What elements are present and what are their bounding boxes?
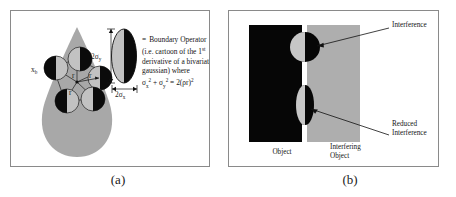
interfering-object-label-line2: Object bbox=[330, 152, 361, 161]
sigma-y-dimension-label: 2σy bbox=[91, 52, 101, 62]
legend-formula: σx2 + σy2 = 2(ρr)2 bbox=[142, 76, 210, 92]
interfering-object-label: Interfering Object bbox=[330, 143, 361, 161]
radius-label-2: r bbox=[89, 71, 91, 80]
boundary-operator-blob-4 bbox=[81, 87, 105, 111]
radius-label-1: r bbox=[72, 71, 74, 80]
legend-line-3: derivative of a bivariate bbox=[142, 57, 210, 67]
boundary-operator-blob-2 bbox=[68, 47, 92, 71]
radius-label-3: r bbox=[69, 88, 71, 97]
boundary-point-label: xb bbox=[31, 65, 37, 75]
sigma-x-dimension-label: 2σx bbox=[115, 90, 125, 100]
legend-line-2: (i.e. cartoon of the 1st bbox=[142, 45, 210, 57]
operator-legend-text: =Boundary Operator (i.e. cartoon of the … bbox=[142, 35, 210, 91]
interfering-object-label-line1: Interfering bbox=[330, 143, 361, 152]
reduced-interference-label-line2: Interference bbox=[392, 129, 427, 138]
boundary-operator-blob-3 bbox=[88, 66, 112, 90]
panel-a-caption: (a) bbox=[98, 172, 138, 188]
boundary-operator-blob-1 bbox=[44, 56, 68, 80]
boundary-operator-upper bbox=[290, 32, 320, 62]
boundary-operator-blob-5 bbox=[55, 89, 79, 113]
interference-label: Interference bbox=[392, 21, 427, 30]
reduced-interference-label: Reduced Interference bbox=[392, 120, 427, 138]
panel-a: xb r r r 2σy 2σx =Boundary Operator (i.e… bbox=[10, 10, 210, 167]
object-label: Object bbox=[262, 148, 302, 157]
boundary-operator-lower bbox=[296, 85, 314, 125]
legend-line-1: =Boundary Operator bbox=[142, 35, 210, 45]
reduced-interference-label-line1: Reduced bbox=[392, 120, 427, 129]
legend-line-4: gaussian) where bbox=[142, 66, 210, 76]
figure-root: xb r r r 2σy 2σx =Boundary Operator (i.e… bbox=[0, 0, 456, 197]
panel-b-caption: (b) bbox=[330, 172, 370, 188]
boundary-operator-icon bbox=[112, 29, 137, 83]
